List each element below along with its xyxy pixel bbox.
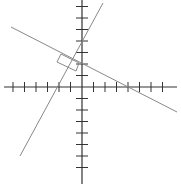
coordinate-plane-diagram [0, 0, 181, 187]
axes [4, 0, 177, 184]
shallow-line [11, 27, 177, 112]
steep-line [20, 3, 103, 156]
perpendicular-lines [11, 3, 177, 156]
